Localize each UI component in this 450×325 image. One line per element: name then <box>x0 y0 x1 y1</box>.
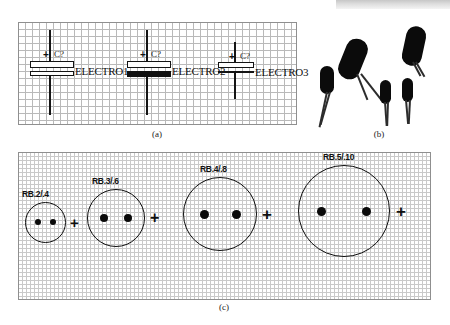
footprint-outline-circle <box>25 202 66 243</box>
footprint-label: RB.5/.10 <box>323 153 354 162</box>
footprint-label: RB.2/.4 <box>22 190 49 199</box>
capacitor-reference-designator: C? <box>54 50 64 59</box>
capacitor-can-icon <box>402 78 413 102</box>
footprint-outline-circle <box>87 189 145 247</box>
footprint-label: RB.4/.8 <box>200 165 227 174</box>
capacitor-reference-designator: C? <box>151 50 161 59</box>
plate-positive-icon <box>127 61 171 68</box>
plate-positive-icon <box>218 62 254 68</box>
figure-root: + C? ELECTRO1 + C? ELECTRO2 + C? ELECTRO… <box>0 0 450 325</box>
panel-b-caption: (b) <box>358 130 400 139</box>
pad-hole <box>50 219 56 225</box>
lead-bottom-icon <box>49 76 51 115</box>
scan-artifact-smudge <box>336 0 450 9</box>
capacitor-can-icon <box>380 80 391 104</box>
polarity-plus-sign: + <box>140 50 146 60</box>
separator-plus: + <box>70 215 79 230</box>
footprint-rb-4-8: RB.4/.8 + <box>180 165 292 257</box>
lead-bottom-icon <box>146 77 148 115</box>
plate-negative-icon <box>218 71 254 73</box>
separator-plus: + <box>150 210 159 226</box>
panel-c-caption: (c) <box>203 303 245 312</box>
pad-hole <box>232 210 241 219</box>
footprint-outline-circle <box>183 177 257 251</box>
plate-positive-icon <box>30 61 74 68</box>
footprint-label: RB.3/.6 <box>92 177 119 186</box>
pad-hole <box>200 210 209 219</box>
footprint-rb-5-10: RB.5/.10 + <box>295 153 430 263</box>
pad-hole <box>317 207 326 216</box>
pad-hole <box>362 207 371 216</box>
pad-hole <box>100 214 108 222</box>
polarity-plus-sign: + <box>43 50 49 60</box>
footprint-rb-3-6: RB.3/.6 + <box>84 177 176 252</box>
separator-plus: + <box>396 203 406 220</box>
lead-bottom-icon <box>234 73 236 99</box>
capacitor-can-icon <box>400 24 428 67</box>
lead-top-icon <box>146 30 148 61</box>
capacitor-name-label: ELECTRO1 <box>75 66 128 77</box>
footprint-outline-circle <box>298 165 390 257</box>
plate-negative-icon <box>30 71 74 76</box>
plate-negative-icon <box>127 71 171 77</box>
capacitor-can-icon <box>335 35 371 82</box>
capacitor-lead-wire <box>386 102 388 126</box>
capacitor-can-icon <box>320 66 334 94</box>
lead-top-icon <box>49 30 51 61</box>
pad-hole <box>124 214 132 222</box>
separator-plus: + <box>262 206 272 223</box>
panel-a-caption: (a) <box>136 130 178 139</box>
capacitor-reference-designator: C? <box>240 52 250 61</box>
pad-hole <box>35 219 41 225</box>
panel-b-photo <box>300 18 448 128</box>
capacitor-lead-wire <box>408 100 411 124</box>
polarity-plus-sign: + <box>229 52 235 62</box>
